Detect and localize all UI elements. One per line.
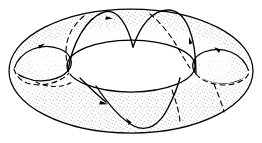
torus-surface	[0, 0, 262, 143]
torus-figure: A torus seen in oblique projection, shad…	[0, 0, 262, 143]
torus-diagram-svg	[0, 0, 262, 143]
